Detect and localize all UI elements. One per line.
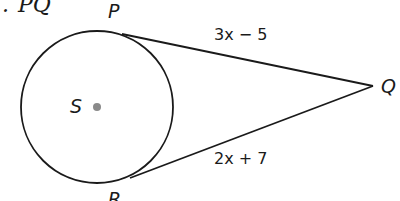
prompt-text: PQ [17, 0, 51, 17]
label-r: R [108, 188, 121, 201]
expression-rq: 2x + 7 [214, 149, 267, 168]
diagram-canvas: . PQ S P Q R 3x − 5 2x + 7 [0, 0, 400, 201]
prompt-bullet: . [2, 0, 9, 17]
label-s: S [70, 95, 82, 117]
center-point-s [93, 103, 101, 111]
label-q: Q [381, 75, 396, 97]
label-p: P [108, 0, 120, 22]
tangent-diagram: . PQ S P Q R 3x − 5 2x + 7 [0, 0, 400, 201]
expression-pq: 3x − 5 [214, 25, 267, 44]
